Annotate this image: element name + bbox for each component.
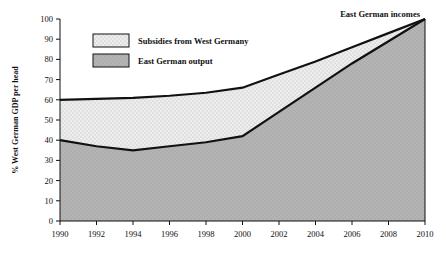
y-tick-label: 80 — [45, 54, 54, 64]
chart-canvas: 0102030405060708090100 19901992199419961… — [0, 0, 446, 264]
x-tick-label: 1990 — [52, 229, 69, 239]
x-tick-label: 1994 — [125, 229, 143, 239]
x-tick-label: 2010 — [417, 229, 434, 239]
y-tick-label: 90 — [45, 34, 54, 44]
annotation-east-german-incomes: East German incomes — [340, 9, 420, 19]
x-tick-label: 2004 — [307, 229, 325, 239]
legend-label-subsidies: Subsidies from West Germany — [138, 36, 249, 46]
y-tick-label: 100 — [40, 14, 53, 24]
x-tick-label: 1996 — [161, 229, 178, 239]
legend-swatch-subsidies — [93, 34, 129, 47]
y-tick-label: 60 — [45, 95, 54, 105]
y-tick-label: 70 — [45, 75, 54, 85]
y-tick-label: 10 — [45, 196, 54, 206]
y-tick-label: 20 — [45, 176, 54, 186]
x-tick-label: 2002 — [271, 229, 288, 239]
x-tick-label: 2008 — [380, 229, 397, 239]
y-tick-label: 0 — [49, 216, 53, 226]
y-axis-title: % West German GDP per head — [11, 66, 20, 174]
legend-label-output: East German output — [138, 56, 213, 66]
legend-swatch-output — [93, 54, 129, 67]
x-tick-label: 2006 — [344, 229, 361, 239]
x-tick-label: 1998 — [198, 229, 215, 239]
chart-container: 0102030405060708090100 19901992199419961… — [0, 0, 446, 264]
x-tick-label: 1992 — [88, 229, 105, 239]
x-tick-label: 2000 — [234, 229, 251, 239]
y-tick-label: 30 — [45, 155, 54, 165]
y-tick-label: 50 — [45, 115, 54, 125]
y-tick-label: 40 — [45, 135, 54, 145]
